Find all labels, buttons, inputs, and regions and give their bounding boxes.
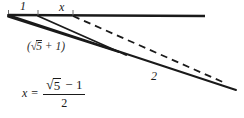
formula-fraction: √5 − 1 2 [43,78,85,109]
numerator-sqrt-group: √5 [46,78,61,93]
plus-one-term: + 1 [45,40,61,52]
ray-dashed [73,16,225,83]
label-segment-one: 1 [20,0,26,12]
radicand-five: 5 [36,40,42,53]
figure-canvas: 1 x 2 (√5 + 1) x = √5 − 1 2 [0,0,244,118]
label-segment-two: 2 [151,70,157,82]
label-segment-x: x [59,1,64,13]
numerator-radicand: 5 [53,78,62,93]
formula-equals-sign: = [31,86,38,101]
formula-denominator: 2 [61,95,67,109]
label-sqrt5-plus-1: (√5 + 1) [27,40,65,53]
paren-close: ) [61,40,65,52]
formula-variable: x [22,86,27,101]
formula-x-equals-golden-ratio: x = √5 − 1 2 [22,78,85,109]
numerator-minus-one: − 1 [65,77,82,92]
formula-numerator: √5 − 1 [43,78,85,94]
